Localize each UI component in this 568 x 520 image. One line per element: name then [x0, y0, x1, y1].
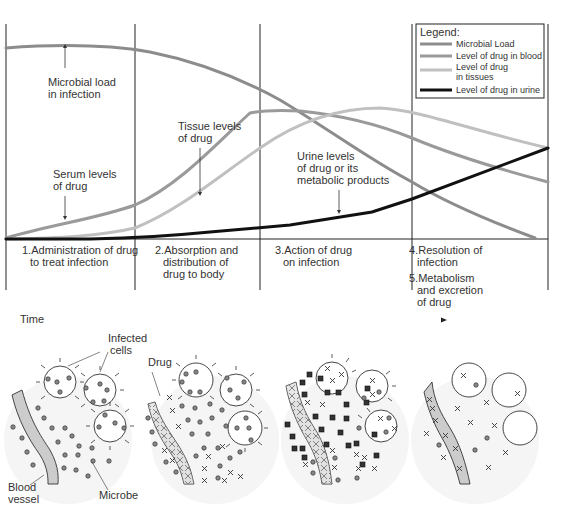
svg-text:3.Action of drug: 3.Action of drug — [275, 244, 352, 256]
svg-text:Tissue levels: Tissue levels — [178, 120, 242, 132]
svg-text:in infection: in infection — [48, 88, 101, 100]
illustration-distribution: Drug — [146, 355, 279, 504]
svg-text:distribution of: distribution of — [163, 256, 229, 268]
illustration-action — [281, 354, 409, 504]
svg-text:metabolic products: metabolic products — [297, 174, 390, 186]
label-microbe: Microbe — [99, 489, 138, 501]
svg-text:of drug: of drug — [178, 132, 212, 144]
svg-text:4.Resolution of: 4.Resolution of — [409, 244, 483, 256]
stage-4: 4.Resolution of infection — [409, 244, 483, 268]
svg-text:and excretion: and excretion — [417, 284, 483, 296]
svg-text:infection: infection — [417, 256, 458, 268]
stage-5: 5.Metabolism and excretion of drug — [409, 272, 483, 308]
drug-action-diagram: Microbial load in infection Tissue level… — [0, 0, 568, 520]
svg-text:Legend:: Legend: — [420, 26, 460, 38]
stage-3: 3.Action of drug on infection — [275, 244, 352, 268]
svg-text:of drug: of drug — [417, 296, 451, 308]
annotation-microbial: Microbial load in infection — [48, 46, 116, 100]
svg-text:5.Metabolism: 5.Metabolism — [409, 272, 474, 284]
svg-text:vessel: vessel — [8, 493, 39, 505]
svg-text:Urine levels: Urine levels — [297, 150, 355, 162]
svg-text:on infection: on infection — [283, 256, 339, 268]
illustration-resolution — [411, 363, 539, 504]
stage-labels: 1.Administration of drug to treat infect… — [22, 244, 483, 308]
label-drug: Drug — [148, 356, 172, 368]
svg-text:Microbial Load: Microbial Load — [456, 39, 515, 49]
svg-text:to treat infection: to treat infection — [30, 256, 108, 268]
svg-text:cells: cells — [110, 344, 133, 356]
stage-2: 2.Absorption and distribution of drug to… — [155, 244, 238, 280]
svg-text:in tissues: in tissues — [456, 72, 494, 82]
svg-text:Level of drug in blood: Level of drug in blood — [456, 51, 542, 61]
illustration-infection: Infected cells Blood vessel Microbe — [4, 332, 147, 505]
label-blood-vessel: Blood — [8, 481, 36, 493]
svg-text:Level of drug in urine: Level of drug in urine — [456, 85, 540, 95]
svg-text:drug to body: drug to body — [163, 268, 225, 280]
time-arrow-icon — [441, 318, 447, 323]
annotation-serum: Serum levels of drug — [53, 168, 117, 218]
svg-text:of drug: of drug — [53, 180, 87, 192]
time-axis: Time — [20, 313, 447, 325]
stage-1: 1.Administration of drug to treat infect… — [22, 244, 138, 268]
curve-drug-in-urine — [6, 148, 548, 239]
svg-text:Time: Time — [20, 313, 44, 325]
svg-text:Serum levels: Serum levels — [53, 168, 117, 180]
svg-text:1.Administration of drug: 1.Administration of drug — [22, 244, 138, 256]
svg-text:Microbial load: Microbial load — [48, 76, 116, 88]
svg-text:Level of drug: Level of drug — [456, 62, 508, 72]
svg-text:of drug or its: of drug or its — [297, 162, 359, 174]
label-infected-cells: Infected — [108, 332, 147, 344]
legend: Legend: Microbial Load Level of drug in … — [416, 24, 544, 98]
svg-text:2.Absorption and: 2.Absorption and — [155, 244, 238, 256]
